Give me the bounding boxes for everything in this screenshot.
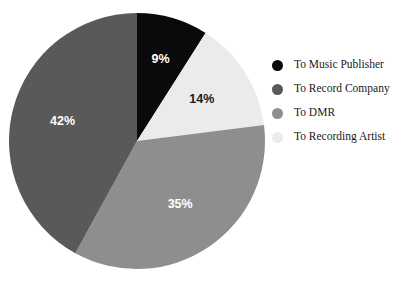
legend-item-label: To DMR [294,107,335,119]
legend-item-label: To Record Company [294,83,390,95]
pie-slice-label-to-record-company: 42% [50,114,75,128]
pie-chart-svg: 9% 14% 35% 42% [0,0,275,281]
pie-slice-label-to-dmr: 35% [168,197,193,211]
pie-slice-label-to-music-publisher: 9% [152,52,170,66]
legend-item-to-dmr[interactable]: To DMR [272,101,417,125]
pie-slice-label-to-recording-artist: 14% [189,92,214,106]
legend-swatch-icon [272,84,283,95]
pie-chart-figure: 9% 14% 35% 42% To Music Publisher To Rec… [0,0,417,281]
legend-item-label: To Recording Artist [294,131,385,143]
legend-item-label: To Music Publisher [294,59,384,71]
pie-chart-plot-area: 9% 14% 35% 42% [0,0,275,281]
legend-swatch-icon [272,60,283,71]
legend-item-to-record-company[interactable]: To Record Company [272,77,417,101]
legend-swatch-icon [272,132,283,143]
chart-legend: To Music Publisher To Record Company To … [272,53,417,149]
legend-item-to-recording-artist[interactable]: To Recording Artist [272,125,417,149]
legend-swatch-icon [272,108,283,119]
legend-item-to-music-publisher[interactable]: To Music Publisher [272,53,417,77]
